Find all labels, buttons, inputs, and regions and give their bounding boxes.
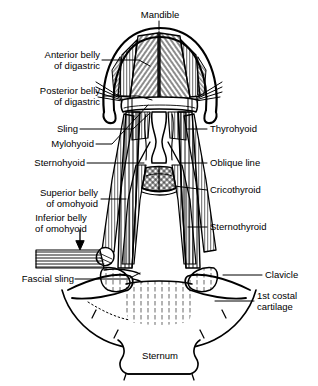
anatomy-diagram: Anterior belly of digastric Posterior be… — [0, 0, 318, 386]
label-thyrohyoid: Thyrohyoid — [210, 123, 310, 134]
cricothyroid-muscle — [142, 167, 176, 192]
label-cricothyroid: Cricothyroid — [210, 184, 310, 195]
label-inferior-belly-of-omohyoid: Inferior belly of omohyoid — [18, 212, 104, 234]
label-mandible: Mandible — [129, 9, 191, 20]
label-sternothyroid: Sternothyroid — [210, 221, 310, 232]
label-anterior-belly-of-digastric: Anterior belly of digastric — [8, 49, 100, 71]
label-posterior-belly-of-digastric: Posterior belly of digastric — [0, 85, 100, 107]
label-superior-belly-of-omohyoid: Superior belly of omohyoid — [14, 187, 98, 209]
label-clavicle: Clavicle — [265, 269, 317, 280]
hyoid-bone — [121, 97, 197, 112]
label-sling: Sling — [18, 123, 78, 134]
costal-cartilage — [124, 281, 194, 325]
label-mylohyoid: Mylohyoid — [30, 138, 94, 149]
label-sternohyoid: Sternohyoid — [10, 157, 85, 168]
label-oblique-line: Oblique line — [210, 157, 310, 168]
omohyoid-inferior — [36, 230, 104, 268]
label-sternum: Sternum — [131, 350, 189, 361]
label-fascial-sling: Fascial sling — [2, 273, 74, 284]
pleural-margin-dotted — [88, 302, 130, 320]
label-1st-costal-cartilage: 1st costal cartilage — [257, 290, 317, 312]
cricoid-cartilage — [142, 192, 176, 195]
